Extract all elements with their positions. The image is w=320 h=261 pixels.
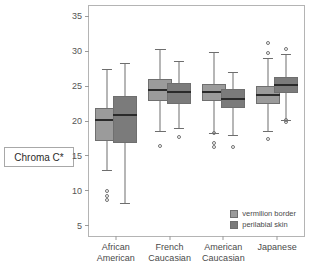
y-axis-tick-label: 15 <box>72 151 82 161</box>
y-axis-tick: 15 <box>72 151 89 161</box>
x-axis-tick-mark <box>169 236 170 240</box>
boxplot-chart: 5101520253035 AfricanAmericanFrenchCauca… <box>88 5 305 237</box>
y-axis-title-label: Chroma C* <box>14 152 63 163</box>
legend-label: vermilion border <box>242 209 296 218</box>
y-axis-tick-label: 30 <box>72 46 82 56</box>
boxplot-series-container <box>89 6 304 236</box>
y-axis-title: Chroma C* <box>4 147 74 167</box>
boxplot-median-line <box>274 84 298 86</box>
legend-item: perilabial skin <box>230 220 296 229</box>
legend-label: perilabial skin <box>242 220 287 229</box>
x-axis-tick-mark <box>223 236 224 240</box>
y-axis-tick-label: 10 <box>72 186 82 196</box>
y-axis-tick-label: 5 <box>77 221 82 231</box>
boxplot-whisker-cap-upper <box>281 54 291 55</box>
y-axis-tick-label: 20 <box>72 116 82 126</box>
y-axis-tick: 35 <box>72 11 89 21</box>
x-axis-tick-label: Japanese <box>258 242 297 253</box>
x-axis-tick-label: FrenchCaucasian <box>148 242 191 261</box>
legend-item: vermilion border <box>230 209 296 218</box>
y-axis-tick: 20 <box>72 116 89 126</box>
y-axis-tick: 30 <box>72 46 89 56</box>
y-axis-tick-label: 25 <box>72 81 82 91</box>
legend-swatch <box>230 210 238 218</box>
x-axis-tick-mark <box>115 236 116 240</box>
y-axis-tick: 5 <box>77 221 89 231</box>
x-axis-tick-label: AfricanAmerican <box>97 242 135 261</box>
y-axis-tick: 10 <box>72 186 89 196</box>
boxplot-box <box>89 6 304 236</box>
y-axis-tick-label: 35 <box>72 11 82 21</box>
y-axis-tick: 25 <box>72 81 89 91</box>
x-axis-tick-label: AmericanCaucasian <box>202 242 245 261</box>
x-axis-tick-mark <box>277 236 278 240</box>
chart-legend: vermilion borderperilabial skin <box>226 206 300 232</box>
boxplot-outlier-point <box>284 120 288 124</box>
legend-swatch <box>230 221 238 229</box>
boxplot-outlier-point <box>284 47 288 51</box>
